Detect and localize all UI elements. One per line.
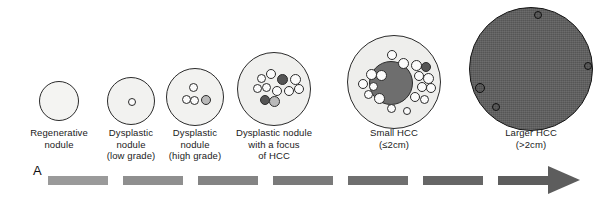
nodule-dysplastic-nodule-with-focus-of-hcc <box>237 52 311 126</box>
nodule-cell <box>374 93 385 104</box>
nodule-dysplastic-nodule-low-grade <box>107 77 155 125</box>
arrow-segment <box>198 176 258 185</box>
nodule-cell <box>201 95 211 105</box>
arrow-head-icon <box>548 166 580 194</box>
nodule-cell <box>253 84 262 93</box>
caption-line: (≤2cm) <box>344 139 444 151</box>
nodule-cell <box>410 92 420 102</box>
nodule-cell <box>369 82 378 91</box>
nodule-cell <box>403 107 411 115</box>
arrow-segment <box>123 176 183 185</box>
nodule-cell <box>387 104 396 113</box>
nodule-larger-hcc <box>469 7 593 131</box>
nodule-cell <box>189 83 198 92</box>
nodule-cell <box>376 70 387 81</box>
caption-line: with a focus <box>221 139 327 151</box>
tumor-texture <box>470 8 592 130</box>
caption-larger-hcc: Larger HCC(>2cm) <box>481 127 581 150</box>
panel-letter-label: A <box>33 163 42 178</box>
caption-line: Small HCC <box>344 127 444 139</box>
nodule-regenerative-nodule <box>39 81 79 121</box>
nodule-cell <box>366 69 377 80</box>
hcc-progression-figure: RegenerativenoduleDysplasticnodule(low g… <box>0 0 603 200</box>
nodule-cell <box>190 96 199 105</box>
nodule-cell <box>420 95 429 104</box>
nodule-cell <box>387 50 397 60</box>
nodule-cell <box>277 74 288 85</box>
caption-dysplastic-nodule-with-focus-of-hcc: Dysplastic nodulewith a focusof HCC <box>221 127 327 162</box>
arrow-segment <box>48 176 108 185</box>
nodule-dysplastic-nodule-high-grade <box>166 68 224 126</box>
nodule-cell <box>411 60 422 71</box>
nodule-cell <box>534 11 542 19</box>
nodule-cell <box>358 79 368 89</box>
nodule-cell <box>257 74 266 83</box>
nodule-cell <box>294 84 304 94</box>
nodule-cell <box>584 62 592 70</box>
nodule-cell <box>475 83 485 93</box>
caption-line: Dysplastic nodule <box>221 127 327 139</box>
nodule-cell <box>272 86 282 96</box>
nodule-cell <box>426 83 436 93</box>
arrow-segment <box>273 176 333 185</box>
caption-line: of HCC <box>221 150 327 162</box>
caption-line: (>2cm) <box>481 139 581 151</box>
arrow-segment <box>348 176 408 185</box>
nodule-cell <box>290 74 301 85</box>
nodule-cell <box>262 83 271 92</box>
nodule-cell <box>284 86 294 96</box>
nodule-cell <box>266 69 276 79</box>
arrow-segment <box>498 176 550 185</box>
nodule-cell <box>364 90 373 99</box>
nodule-cell <box>421 62 431 72</box>
arrow-segment <box>423 176 483 185</box>
nodule-small-hcc <box>347 35 441 129</box>
nodule-cell <box>269 96 280 107</box>
nodule-cell <box>128 98 136 106</box>
nodule-cell <box>492 103 500 111</box>
caption-small-hcc: Small HCC(≤2cm) <box>344 127 444 150</box>
nodule-cell <box>398 58 409 69</box>
caption-line: Larger HCC <box>481 127 581 139</box>
